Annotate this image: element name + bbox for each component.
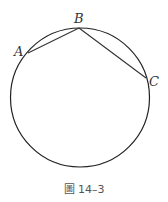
point-label-a: A [13, 44, 23, 59]
chord-ab [28, 28, 79, 53]
point-label-b: B [73, 11, 84, 26]
circle-chord-diagram: A B C [0, 0, 168, 202]
circle [11, 28, 150, 167]
point-label-c: C [149, 74, 159, 89]
figure-caption: 圖 14–3 [0, 180, 168, 196]
